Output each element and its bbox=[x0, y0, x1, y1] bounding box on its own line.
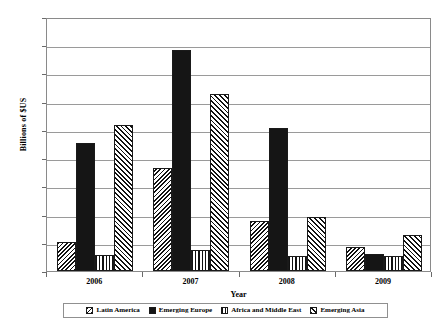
legend-swatch-icon bbox=[86, 307, 93, 314]
bar-africa-and-middle-east-2008 bbox=[288, 256, 307, 271]
bar-latin-america-2009 bbox=[346, 247, 365, 271]
legend-swatch-icon bbox=[221, 307, 228, 314]
bar-emerging-europe-2008 bbox=[269, 128, 288, 271]
y-tick-mark bbox=[42, 159, 46, 160]
legend-item-emerging-asia[interactable]: Emerging Asia bbox=[310, 307, 364, 314]
x-tick-label-2007: 2007 bbox=[160, 277, 220, 286]
gridline bbox=[47, 47, 430, 48]
legend-item-africa-and-middle-east[interactable]: Africa and Middle East bbox=[221, 307, 301, 314]
bar-emerging-asia-2006 bbox=[114, 125, 133, 271]
y-tick-mark bbox=[42, 131, 46, 132]
y-tick-mark bbox=[42, 18, 46, 19]
x-tick-label-2009: 2009 bbox=[353, 277, 413, 286]
x-tick-mark bbox=[335, 272, 336, 277]
bar-latin-america-2007 bbox=[153, 168, 172, 271]
y-tick-mark bbox=[42, 46, 46, 47]
bar-emerging-asia-2009 bbox=[403, 235, 422, 271]
legend: Latin AmericaEmerging EuropeAfrica and M… bbox=[63, 303, 388, 318]
legend-label: Latin America bbox=[96, 307, 139, 314]
legend-label: Africa and Middle East bbox=[231, 307, 301, 314]
legend-label: Emerging Asia bbox=[320, 307, 364, 314]
legend-item-emerging-europe[interactable]: Emerging Europe bbox=[149, 307, 212, 314]
legend-swatch-icon bbox=[310, 307, 317, 314]
bar-africa-and-middle-east-2009 bbox=[384, 256, 403, 271]
y-tick-mark bbox=[42, 74, 46, 75]
legend-label: Emerging Europe bbox=[159, 307, 212, 314]
gridline bbox=[47, 132, 430, 133]
gridline bbox=[47, 217, 430, 218]
bar-latin-america-2006 bbox=[57, 242, 76, 271]
x-tick-label-2008: 2008 bbox=[257, 277, 317, 286]
x-tick-label-2006: 2006 bbox=[64, 277, 124, 286]
gridline bbox=[47, 188, 430, 189]
x-tick-mark bbox=[46, 272, 47, 277]
gridline bbox=[47, 104, 430, 105]
bar-emerging-europe-2006 bbox=[76, 143, 95, 271]
bar-emerging-asia-2008 bbox=[307, 217, 326, 271]
bar-emerging-asia-2007 bbox=[210, 94, 229, 271]
y-axis-title: Billions of $US bbox=[19, 65, 28, 185]
x-axis-title: Year bbox=[46, 290, 431, 299]
gridline bbox=[47, 75, 430, 76]
bar-africa-and-middle-east-2006 bbox=[95, 255, 114, 271]
y-tick-mark bbox=[42, 244, 46, 245]
bar-chart: Billions of $US 050100150200250300350400… bbox=[0, 0, 447, 329]
x-tick-mark bbox=[142, 272, 143, 277]
legend-item-latin-america[interactable]: Latin America bbox=[86, 307, 139, 314]
bar-emerging-europe-2009 bbox=[365, 254, 384, 271]
legend-swatch-icon bbox=[149, 307, 156, 314]
y-tick-mark bbox=[42, 216, 46, 217]
gridline bbox=[47, 160, 430, 161]
y-tick-mark bbox=[42, 103, 46, 104]
plot-area bbox=[46, 18, 431, 272]
x-tick-mark bbox=[239, 272, 240, 277]
bar-emerging-europe-2007 bbox=[172, 50, 191, 271]
y-tick-mark bbox=[42, 187, 46, 188]
gridline bbox=[47, 245, 430, 246]
x-tick-mark bbox=[431, 272, 432, 277]
bar-africa-and-middle-east-2007 bbox=[191, 250, 210, 271]
bar-latin-america-2008 bbox=[250, 221, 269, 271]
